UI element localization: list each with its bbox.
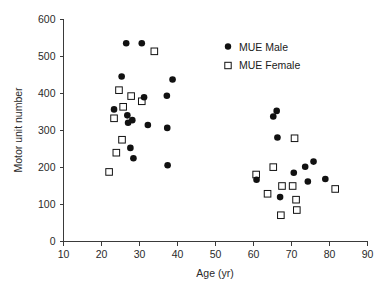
data-point-male (169, 76, 176, 83)
x-tick-label: 60 (248, 248, 260, 260)
data-point-male (145, 122, 152, 129)
x-tick-label: 10 (58, 248, 70, 260)
x-axis-tick-labels: 102030405060708090 (58, 248, 374, 260)
data-point-male (274, 134, 281, 141)
x-tick-label: 30 (134, 248, 146, 260)
data-point-female (278, 212, 285, 219)
data-point-male (129, 117, 136, 124)
data-point-male (310, 158, 317, 165)
data-point-male (141, 94, 148, 101)
data-point-male (123, 40, 130, 47)
y-axis-title: Motor unit number (12, 87, 24, 173)
legend-marker-female-icon (225, 62, 231, 68)
y-tick-label: 400 (38, 87, 56, 99)
data-point-female (289, 183, 296, 190)
data-point-male (277, 194, 284, 201)
y-tick-label: 600 (38, 13, 56, 25)
y-tick-label: 300 (38, 124, 56, 136)
x-tick-label: 20 (96, 248, 108, 260)
x-tick-label: 50 (210, 248, 222, 260)
data-point-female (294, 207, 301, 214)
data-point-male (164, 125, 171, 132)
y-tick-label: 500 (38, 50, 56, 62)
series-mue-female (106, 48, 339, 219)
data-point-female (291, 135, 298, 142)
data-point-male (164, 162, 171, 169)
data-point-male (130, 155, 137, 162)
data-point-female (128, 93, 135, 100)
y-axis-ticks (60, 20, 64, 242)
data-point-female (264, 190, 271, 197)
y-tick-label: 0 (50, 235, 56, 247)
data-point-male (111, 106, 118, 113)
x-tick-label: 70 (286, 248, 298, 260)
y-axis-tick-labels: 0100200300400500600 (38, 13, 56, 247)
data-point-male (138, 40, 145, 47)
data-point-male (127, 145, 134, 152)
data-point-female (120, 104, 127, 111)
data-point-female (113, 149, 120, 156)
legend-label-female: MUE Female (239, 59, 300, 71)
y-tick-label: 200 (38, 161, 56, 173)
chart-legend: MUE Male MUE Female (225, 41, 301, 71)
data-point-female (151, 48, 158, 55)
data-point-male (253, 176, 260, 183)
data-point-male (164, 92, 171, 99)
data-point-female (332, 186, 339, 193)
data-point-male (273, 108, 280, 115)
chart-canvas: 0100200300400500600 102030405060708090 A… (0, 0, 378, 295)
data-point-female (106, 169, 113, 176)
data-point-male (270, 113, 277, 120)
scatter-chart-figure: 0100200300400500600 102030405060708090 A… (0, 0, 378, 295)
x-tick-label: 40 (172, 248, 184, 260)
legend-label-male: MUE Male (239, 41, 288, 53)
data-point-female (279, 183, 286, 190)
data-point-male (124, 112, 131, 119)
x-tick-label: 80 (324, 248, 336, 260)
data-point-female (116, 87, 123, 94)
data-point-male (302, 163, 309, 170)
y-tick-label: 100 (38, 198, 56, 210)
legend-marker-male-icon (225, 43, 231, 49)
data-point-female (293, 196, 300, 203)
data-point-male (118, 73, 125, 80)
data-point-female (119, 136, 126, 143)
x-axis-ticks (64, 242, 368, 246)
data-point-male (290, 169, 297, 176)
x-tick-label: 90 (362, 248, 374, 260)
data-point-female (111, 115, 118, 122)
data-point-female (270, 164, 277, 171)
data-point-male (305, 178, 312, 185)
x-axis-title: Age (yr) (196, 267, 233, 279)
data-point-male (322, 176, 329, 183)
